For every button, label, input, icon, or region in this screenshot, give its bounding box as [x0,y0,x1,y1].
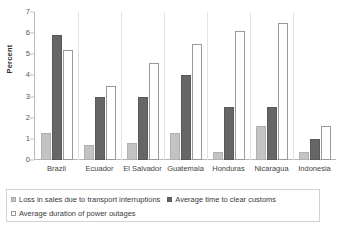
legend-swatch-icon-series-0 [11,197,16,202]
group-separator [121,12,122,160]
bar [170,133,180,160]
x-axis-label-guatemala: Guatemala [167,164,204,173]
bar [84,145,94,160]
y-tick-mark-0 [30,160,34,161]
y-tick-mark-1 [30,138,34,139]
bar [106,86,116,160]
group-separator [164,12,165,160]
bar [52,35,62,160]
bar [138,97,148,160]
y-tick-mark-6 [30,33,34,34]
bar-group-el-salvador [121,12,164,160]
legend-label-series-0: Loss in sales due to transport interrupt… [19,196,160,204]
bar [95,97,105,160]
bar [267,107,277,160]
legend-row-primary: Loss in sales due to transport interrupt… [11,193,283,206]
bar-group-guatemala [164,12,207,160]
legend-item-loss-in-sales[interactable]: Loss in sales due to transport interrupt… [11,196,160,204]
bar [256,126,266,160]
y-tick-mark-3 [30,96,34,97]
legend-label-series-1: Average time to clear customs [175,196,276,204]
legend-label-series-2: Average duration of power outages [19,210,136,218]
bar [321,126,331,160]
bar-group-honduras [207,12,250,160]
legend-swatch-icon-series-1 [167,197,172,202]
x-axis-label-nicaragua: Nicaragua [254,164,288,173]
legend: Loss in sales due to transport interrupt… [6,189,320,222]
legend-row-secondary: Average duration of power outages [11,207,143,220]
group-separator [250,12,251,160]
x-axis-category-labels: BrazilEcuadorEl SalvadorGuatemalaHondura… [35,164,336,178]
legend-item-power-outages[interactable]: Average duration of power outages [11,210,136,218]
bar-group-ecuador [78,12,121,160]
x-axis-label-honduras: Honduras [212,164,245,173]
bar [224,107,234,160]
legend-swatch-icon-series-2 [11,211,16,216]
bar [310,139,320,160]
x-axis-label-brazil: Brazil [47,164,66,173]
bar [192,44,202,160]
bar [235,31,245,160]
bar [41,133,51,160]
group-separator [293,12,294,160]
group-separator [207,12,208,160]
x-axis-label-el-salvador: El Salvador [123,164,161,173]
y-tick-mark-2 [30,117,34,118]
bar [181,75,191,160]
bar-chart: Percent 01234567 BrazilEcuadorEl Salvado… [0,0,342,227]
bar [213,152,223,160]
bar [63,50,73,160]
y-tick-mark-4 [30,75,34,76]
bar [127,143,137,160]
legend-item-clear-customs[interactable]: Average time to clear customs [167,196,276,204]
x-axis-label-indonesia: Indonesia [298,164,331,173]
bar [149,63,159,160]
plot-area: Percent 01234567 BrazilEcuadorEl Salvado… [0,0,342,186]
y-tick-mark-7 [30,12,34,13]
y-axis-title: Percent [5,60,14,74]
bar-group-brazil [35,12,78,160]
x-axis-label-ecuador: Ecuador [86,164,114,173]
group-separator [78,12,79,160]
bar [299,152,309,160]
bar [278,23,288,160]
y-tick-mark-5 [30,54,34,55]
bars-container [35,12,336,160]
bar-group-indonesia [293,12,336,160]
bar-group-nicaragua [250,12,293,160]
